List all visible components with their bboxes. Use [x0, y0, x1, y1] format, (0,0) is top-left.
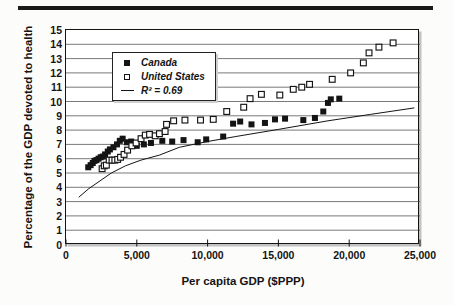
x-tick-label: 15,000 [262, 250, 294, 261]
us-point [277, 92, 283, 98]
us-point [171, 118, 177, 124]
us-point [376, 44, 382, 50]
us-point [157, 131, 163, 137]
y-axis-title: Percentage of the GDP devoted to health [22, 26, 34, 249]
y-tick-label: 5 [56, 168, 62, 179]
x-axis-title: Per capita GDP ($PPP) [181, 275, 304, 287]
canada-point [181, 137, 187, 143]
y-tick-label: 6 [56, 153, 62, 164]
canada-point [141, 141, 147, 147]
y-tick-label: 8 [56, 125, 62, 136]
us-point [360, 60, 366, 66]
us-point [299, 84, 305, 90]
canada-point [336, 96, 342, 102]
us-point [290, 86, 296, 92]
open-square-icon [113, 74, 141, 80]
x-tick-label: 10,000 [192, 250, 224, 261]
canada-point [195, 139, 201, 145]
canada-point [328, 96, 334, 102]
us-point [162, 129, 168, 135]
legend: Canada United States R² = 0.69 [112, 52, 216, 101]
canada-point [262, 120, 268, 126]
y-tick-label: 1 [56, 225, 62, 236]
legend-label-canada: Canada [141, 57, 177, 68]
x-tick-label: 5,000 [124, 250, 150, 261]
canada-point [248, 121, 254, 127]
us-point [164, 121, 170, 127]
y-tick-label: 0 [56, 239, 62, 250]
y-tick-label: 2 [56, 211, 62, 222]
x-tick-label: 25,000 [404, 250, 436, 261]
us-point [224, 109, 230, 115]
legend-row-united-states: United States [113, 70, 215, 84]
us-point [348, 70, 354, 76]
y-tick-label: 13 [50, 53, 62, 64]
canada-point [312, 115, 318, 121]
legend-label-fit: R² = 0.69 [141, 85, 182, 96]
canada-point [148, 140, 154, 146]
us-point [390, 40, 396, 46]
y-tick-label: 9 [56, 111, 62, 122]
line-icon [113, 90, 141, 92]
canada-point [230, 121, 236, 127]
y-tick-label: 12 [50, 68, 62, 79]
us-point [210, 116, 216, 122]
y-tick-label: 14 [50, 39, 62, 50]
canada-point [300, 117, 306, 123]
canada-point [220, 134, 226, 140]
canada-point [282, 116, 288, 122]
figure: Percentage of the GDP devoted to health … [0, 0, 454, 305]
us-point [259, 91, 265, 97]
canada-point [159, 138, 165, 144]
us-point [247, 96, 253, 102]
canada-point [203, 136, 209, 142]
filled-square-icon [113, 60, 141, 66]
canada-point [237, 119, 243, 125]
us-point [147, 131, 153, 137]
canada-point [320, 109, 326, 115]
y-tick-label: 15 [50, 25, 62, 36]
x-tick-label: 20,000 [333, 250, 365, 261]
canada-point [272, 116, 278, 122]
us-point [241, 104, 247, 110]
us-point [198, 117, 204, 123]
legend-label-united-states: United States [141, 71, 205, 82]
y-tick-label: 4 [56, 182, 62, 193]
y-tick-label: 3 [56, 196, 62, 207]
canada-point [169, 139, 175, 145]
y-tick-label: 10 [50, 96, 62, 107]
y-tick-label: 11 [51, 82, 62, 93]
us-point [307, 81, 313, 87]
us-point [329, 76, 335, 82]
us-point [182, 117, 188, 123]
legend-row-canada: Canada [113, 56, 215, 70]
y-tick-label: 7 [56, 139, 62, 150]
x-tick-label: 0 [63, 250, 69, 261]
us-point [366, 50, 372, 56]
legend-row-fit: R² = 0.69 [113, 84, 215, 98]
